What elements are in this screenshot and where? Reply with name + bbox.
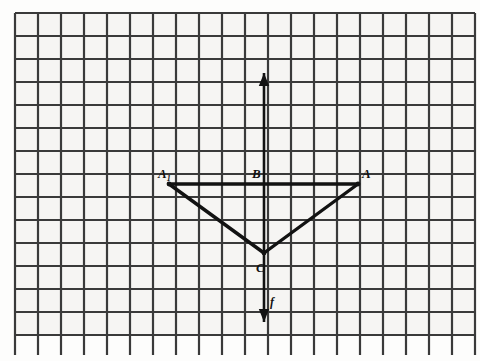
label-b: B xyxy=(251,166,261,181)
vertex-dot xyxy=(356,182,361,187)
diagram-canvas: A1 B A C f xyxy=(0,0,480,361)
label-a-reflected-subscript: 1 xyxy=(167,174,171,183)
label-a-reflected-base: A xyxy=(157,166,167,181)
label-c: C xyxy=(256,260,265,275)
geometry-diagram: A1 B A C f xyxy=(0,0,480,361)
vertex-dot xyxy=(262,251,267,256)
label-a: A xyxy=(361,166,371,181)
